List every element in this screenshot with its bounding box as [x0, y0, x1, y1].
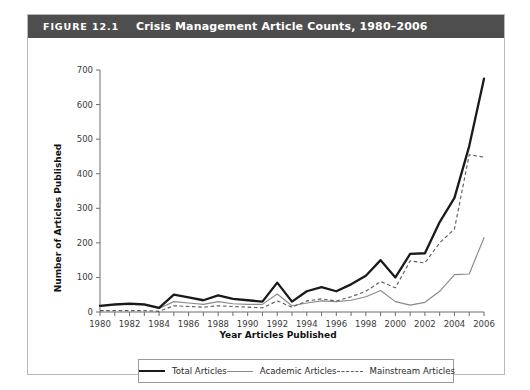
legend-swatch-academic-icon — [227, 371, 253, 372]
legend-label-total: Total Articles — [172, 366, 227, 376]
legend-swatch-mainstream-icon — [337, 371, 363, 372]
x-tick-label: 1984 — [148, 319, 170, 329]
legend-label-academic: Academic Articles — [260, 366, 337, 376]
y-axis: 0100200300400500600700 — [77, 65, 100, 317]
data-series-group — [100, 79, 484, 312]
x-tick-label: 1986 — [178, 319, 200, 329]
x-tick-label: 1992 — [266, 319, 288, 329]
x-tick-label: 2004 — [444, 319, 466, 329]
y-tick-label: 600 — [77, 100, 93, 110]
y-tick-label: 100 — [77, 272, 93, 282]
y-tick-label: 400 — [77, 169, 93, 179]
y-axis-title: Number of Articles Published — [53, 144, 63, 292]
series-mainstream-articles — [100, 155, 484, 312]
line-chart: 0100200300400500600700 19801982198419861… — [28, 38, 504, 374]
x-tick-label: 1990 — [237, 319, 259, 329]
figure-container: FIGURE 12.1 Crisis Management Article Co… — [27, 14, 505, 375]
x-tick-label: 2000 — [385, 319, 407, 329]
x-tick-label: 1998 — [355, 319, 377, 329]
x-axis-title: Year Articles Published — [218, 330, 336, 340]
y-tick-label: 0 — [88, 307, 93, 317]
legend-label-mainstream: Mainstream Articles — [370, 366, 455, 376]
figure-number-label: FIGURE 12.1 — [43, 21, 119, 32]
legend-item-mainstream[interactable]: Mainstream Articles — [337, 366, 455, 376]
figure-title-label: Crisis Management Article Counts, 1980–2… — [136, 20, 428, 33]
chart-legend: Total Articles Academic Articles Mainstr… — [138, 359, 454, 383]
x-tick-label: 1982 — [119, 319, 141, 329]
x-tick-label: 1988 — [207, 319, 229, 329]
legend-item-total[interactable]: Total Articles — [139, 366, 227, 376]
x-tick-label: 1996 — [325, 319, 347, 329]
legend-item-academic[interactable]: Academic Articles — [227, 366, 337, 376]
x-tick-label: 2002 — [414, 319, 436, 329]
legend-swatch-total-icon — [139, 370, 165, 372]
y-tick-label: 300 — [77, 203, 93, 213]
y-tick-label: 200 — [77, 238, 93, 248]
x-tick-label: 1994 — [296, 319, 318, 329]
x-tick-label: 1980 — [89, 319, 111, 329]
chart-plot-region: 0100200300400500600700 19801982198419861… — [28, 38, 504, 374]
x-axis: 1980198219841986198819901992199419961998… — [89, 312, 495, 329]
series-total-articles — [100, 79, 484, 308]
x-tick-label: 2006 — [473, 319, 495, 329]
y-tick-label: 500 — [77, 134, 93, 144]
figure-header: FIGURE 12.1 Crisis Management Article Co… — [28, 15, 504, 38]
y-tick-label: 700 — [77, 65, 93, 75]
